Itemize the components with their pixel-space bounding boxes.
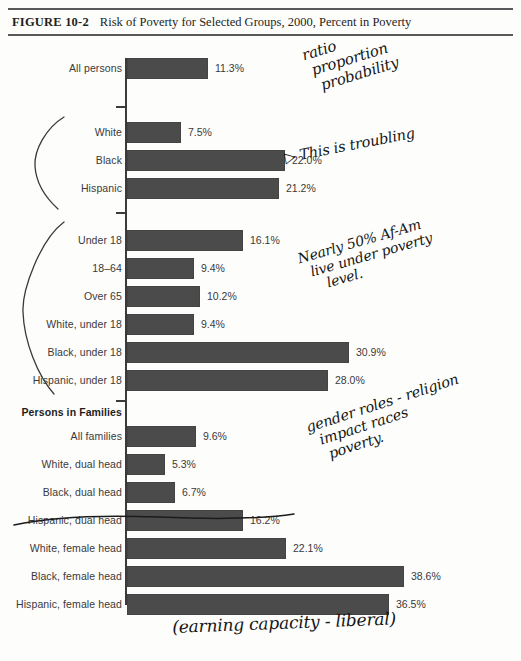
axis-tick-group-2 <box>116 212 126 214</box>
bar <box>127 370 328 391</box>
bar-row: White7.5% <box>0 122 521 145</box>
bar-value-label: 11.3% <box>215 62 244 74</box>
bar-value-label: 9.4% <box>201 262 225 274</box>
section-header-label: Persons in Families <box>21 406 122 418</box>
bar-row: White, under 189.4% <box>0 314 521 337</box>
bar-value-label: 21.2% <box>286 182 316 194</box>
axis-tick-group-1 <box>116 106 126 108</box>
bar-chart: All persons11.3%White7.5%Black22.0%Hispa… <box>0 44 521 629</box>
bar-row: Black, dual head6.7% <box>0 482 521 505</box>
bar-row-label: Over 65 <box>84 290 122 302</box>
bar-row: Over 6510.2% <box>0 286 521 309</box>
bar-row-label: White, female head <box>30 542 122 554</box>
bar-row-label: Hispanic, under 18 <box>33 374 122 386</box>
bar <box>127 482 175 503</box>
bar <box>127 342 349 363</box>
bar-row-label: Hispanic, female head <box>16 598 122 610</box>
bar-row: All families9.6% <box>0 426 521 449</box>
bar-value-label: 9.6% <box>203 430 227 442</box>
bar <box>127 538 286 559</box>
bar-value-label: 9.4% <box>201 318 225 330</box>
figure-number: FIGURE 10-2 <box>12 15 89 29</box>
bar-row-label: White <box>95 126 122 138</box>
bar-row-label: Black, female head <box>31 570 122 582</box>
bar <box>127 150 285 171</box>
bar-row: Black, female head38.6% <box>0 566 521 589</box>
bar <box>127 230 243 251</box>
bar-row: All persons11.3% <box>0 58 521 81</box>
bar-row: Black, under 1830.9% <box>0 342 521 365</box>
bar <box>127 286 200 307</box>
bar-value-label: 6.7% <box>182 486 206 498</box>
handwritten-underline <box>10 512 300 530</box>
bar-row-label: Hispanic <box>81 182 122 194</box>
bar-row: White, female head22.1% <box>0 538 521 561</box>
bar <box>127 58 208 79</box>
bar-value-label: 30.9% <box>356 346 386 358</box>
bar-row-label: Black, under 18 <box>48 346 122 358</box>
bar-value-label: 7.5% <box>188 126 212 138</box>
bar <box>127 258 194 279</box>
bar-row: Under 1816.1% <box>0 230 521 253</box>
bar-row-label: White, dual head <box>42 458 122 470</box>
bar-value-label: 38.6% <box>411 570 441 582</box>
figure-header: FIGURE 10-2Risk of Poverty for Selected … <box>8 8 513 36</box>
bar-row: Hispanic21.2% <box>0 178 521 201</box>
bar-row-label: All families <box>71 430 122 442</box>
bar <box>127 122 181 143</box>
bar-row: Black22.0% <box>0 150 521 173</box>
bar-row: White, dual head5.3% <box>0 454 521 477</box>
bar-row: 18–649.4% <box>0 258 521 281</box>
bar-row-label: 18–64 <box>92 262 122 274</box>
bar <box>127 426 196 447</box>
bar-row-label: All persons <box>69 62 122 74</box>
figure-caption: FIGURE 10-2Risk of Poverty for Selected … <box>12 15 411 30</box>
bar-value-label: 10.2% <box>207 290 237 302</box>
bar <box>127 178 279 199</box>
bar-row-label: Black <box>96 154 122 166</box>
figure-title: Risk of Poverty for Selected Groups, 200… <box>100 15 411 29</box>
bar-row-label: White, under 18 <box>46 318 122 330</box>
bar-value-label: 36.5% <box>396 598 426 610</box>
bar <box>127 566 404 587</box>
bar-value-label: 22.1% <box>293 542 323 554</box>
bar-row-label: Under 18 <box>78 234 122 246</box>
bar-value-label: 16.1% <box>250 234 280 246</box>
bar-value-label: 28.0% <box>335 374 365 386</box>
bar <box>127 454 165 475</box>
bar-value-label: 5.3% <box>172 458 196 470</box>
bar <box>127 314 194 335</box>
bar-row-label: Black, dual head <box>43 486 122 498</box>
